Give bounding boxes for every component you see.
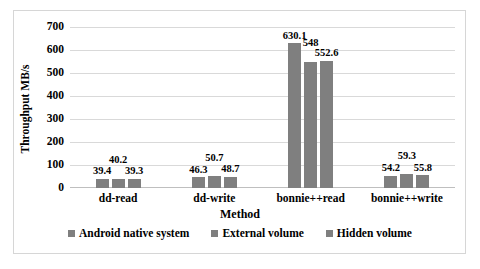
bar-value-label: 552.6 [315, 48, 339, 59]
gridline [70, 50, 455, 51]
y-axis-tick-label: 100 [34, 159, 64, 171]
y-axis-tick-label: 400 [34, 90, 64, 102]
chart-legend: Android native systemExternal volumeHidd… [0, 227, 480, 239]
bar-value-label: 59.3 [398, 151, 416, 162]
x-axis-category-label: bonnie++read [276, 192, 345, 204]
bar [128, 179, 141, 188]
bar [384, 176, 397, 188]
legend-label: Hidden volume [337, 227, 412, 239]
legend-label: External volume [222, 227, 303, 239]
bar [192, 177, 205, 188]
legend-item[interactable]: Android native system [68, 227, 189, 239]
y-axis-tick-label: 700 [34, 21, 64, 33]
gridline [70, 27, 455, 28]
bar-value-label: 54.2 [382, 163, 400, 174]
bar [112, 179, 125, 188]
x-axis-category-label: bonnie++write [371, 192, 443, 204]
gridline [70, 119, 455, 120]
bar-value-label: 48.7 [221, 164, 239, 175]
legend-swatch-icon [326, 230, 333, 237]
x-axis-category-label: dd-write [193, 192, 235, 204]
y-axis-title-text: Throughput MB/s [19, 64, 31, 153]
x-axis-category-labels: dd-readdd-writebonnie++readbonnie++write [70, 192, 455, 208]
bar [416, 175, 429, 188]
gridline [70, 96, 455, 97]
bar [208, 176, 221, 188]
x-axis-category-label: dd-read [99, 192, 138, 204]
y-axis-tick-label: 300 [34, 113, 64, 125]
bar [288, 43, 301, 188]
bar-value-label: 55.8 [414, 163, 432, 174]
bar [224, 177, 237, 188]
y-axis-tick-label: 500 [34, 67, 64, 79]
y-axis-tick-label: 0 [34, 182, 64, 194]
gridline [70, 73, 455, 74]
legend-swatch-icon [211, 230, 218, 237]
legend-item[interactable]: External volume [211, 227, 303, 239]
legend-item[interactable]: Hidden volume [326, 227, 412, 239]
bar [320, 61, 333, 188]
gridline [70, 142, 455, 143]
y-axis-tick-label: 600 [34, 44, 64, 56]
bar-value-label: 46.3 [189, 165, 207, 176]
bar-chart: Throughput MB/s 0100200300400500600700 3… [0, 0, 480, 269]
legend-label: Android native system [79, 227, 189, 239]
bar-value-label: 39.4 [93, 166, 111, 177]
bar [400, 174, 413, 188]
bar [96, 179, 109, 188]
x-axis-title: Method [0, 207, 480, 222]
y-axis-tick-label: 200 [34, 136, 64, 148]
plot-area: 39.440.239.346.350.748.7630.1548552.654.… [70, 27, 455, 188]
bar [304, 62, 317, 188]
legend-swatch-icon [68, 230, 75, 237]
bar-value-label: 50.7 [205, 153, 223, 164]
y-axis-title: Throughput MB/s [16, 36, 34, 181]
bar-value-label: 40.2 [109, 155, 127, 166]
bar-value-label: 39.3 [125, 166, 143, 177]
